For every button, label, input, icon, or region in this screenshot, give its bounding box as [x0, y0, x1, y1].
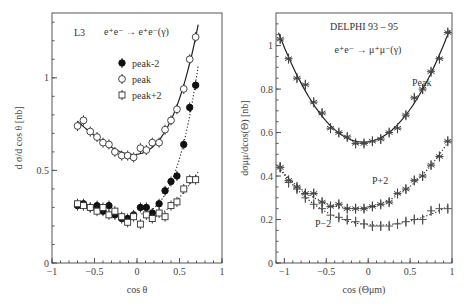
left-panel-l3: −1−0.500.5100.51cos θd σ/d cos θ [nb]L3e…: [13, 13, 225, 295]
data-point-peak+2: [106, 210, 112, 220]
annotation-peak: Peak: [412, 77, 431, 88]
data-point-p-2: [444, 204, 452, 214]
data-point-peak: [410, 93, 418, 103]
data-point-peak+2: [187, 175, 193, 185]
data-point-peak: [124, 151, 131, 161]
data-point-peak: [326, 123, 334, 133]
data-point-p+2: [352, 204, 360, 214]
y-tick-label: 0: [44, 258, 49, 269]
legend-marker-peak-2: [119, 58, 125, 68]
data-point-peak-2: [192, 80, 198, 90]
process-label: e⁺e⁻ → e⁺e⁻(γ): [104, 26, 169, 38]
data-point-p-2: [335, 212, 343, 222]
data-point-peak-2: [181, 139, 187, 149]
data-point-p+2: [343, 204, 351, 214]
data-point-p+2: [444, 136, 452, 146]
data-point-peak+2: [156, 208, 162, 218]
y-tick-label: 0.5: [37, 165, 50, 176]
data-point-peak: [156, 138, 163, 148]
data-point-p-2: [343, 215, 351, 225]
data-point-peak: [343, 132, 351, 142]
data-point-peak: [335, 128, 343, 138]
data-point-p-2: [310, 199, 318, 209]
data-point-p-2: [301, 193, 309, 203]
data-point-peak: [360, 138, 368, 148]
x-tick-label: 0.5: [173, 266, 186, 277]
data-point-p+2: [427, 160, 435, 170]
legend-marker-peak: [119, 74, 126, 84]
right-panel-delphi: −1−0.500.5100.20.40.60.81cos (Θμm)dσμμ/d…: [239, 13, 455, 296]
data-point-peak: [94, 132, 101, 142]
data-point-p-2: [402, 217, 410, 227]
data-point-p+2: [310, 188, 318, 198]
legend-label: peak: [132, 74, 151, 85]
data-point-p-2: [435, 204, 443, 214]
data-point-p-2: [427, 206, 435, 216]
data-point-peak-2: [106, 201, 112, 211]
y-tick-label: 0.6: [261, 127, 274, 138]
data-point-peak: [143, 145, 150, 155]
x-tick-label: 0: [135, 266, 140, 277]
data-point-peak+2: [193, 175, 199, 185]
data-point-p+2: [368, 201, 376, 211]
x-tick-label: −1: [279, 266, 290, 277]
data-point-peak+2: [168, 201, 174, 211]
data-point-p-2: [368, 221, 376, 231]
experiment-label: L3: [74, 27, 85, 38]
data-point-peak: [368, 136, 376, 146]
x-axis-title: cos (Θμm): [343, 284, 386, 296]
data-point-p-2: [352, 217, 360, 227]
x-tick-label: 0: [366, 266, 371, 277]
data-point-peak-2: [156, 199, 162, 209]
legend-label: peak-2: [132, 58, 159, 69]
data-point-p+2: [377, 199, 385, 209]
data-point-peak: [318, 108, 326, 118]
x-axis-title: cos θ: [127, 284, 148, 295]
y-tick-label: 0.8: [261, 84, 274, 95]
annotation-p-plus-2: P+2: [372, 175, 388, 186]
data-point-peak: [192, 32, 199, 42]
data-point-peak+2: [137, 219, 143, 229]
data-point-peak+2: [87, 202, 93, 212]
y-tick-label: 0.4: [261, 171, 274, 182]
data-point-peak: [444, 28, 452, 38]
x-tick-label: 1: [450, 266, 455, 277]
data-point-peak-2: [187, 102, 193, 112]
x-tick-label: 0.5: [404, 266, 417, 277]
data-point-p-2: [410, 215, 418, 225]
x-tick-label: −0.5: [317, 266, 335, 277]
data-point-p+2: [419, 171, 427, 181]
data-point-p+2: [410, 175, 418, 185]
experiment-label: DELPHI 93 – 95: [330, 21, 398, 32]
data-point-p-2: [360, 219, 368, 229]
data-point-peak: [100, 138, 107, 148]
data-point-peak-2: [168, 177, 174, 187]
y-tick-label: 1: [44, 72, 49, 83]
figure: −1−0.500.5100.51cos θd σ/d cos θ [nb]L3e…: [0, 0, 464, 307]
y-tick-label: 0.2: [261, 214, 274, 225]
data-point-peak: [385, 128, 393, 138]
data-point-peak: [87, 127, 94, 137]
data-point-p-2: [377, 221, 385, 231]
y-tick-label: 0: [268, 258, 273, 269]
data-point-peak+2: [162, 212, 168, 222]
data-point-peak: [301, 80, 309, 90]
annotation-p-minus-2: P−2: [315, 218, 331, 229]
data-point-peak+2: [143, 210, 149, 220]
data-point-p-2: [394, 219, 402, 229]
data-point-p-2: [385, 221, 393, 231]
data-point-p+2: [360, 204, 368, 214]
data-point-peak-2: [162, 186, 168, 196]
data-point-peak-2: [137, 202, 143, 212]
legend-marker-peak+2: [119, 90, 125, 100]
y-axis-title: dσμμ/dcos(Θ) [nb]: [239, 100, 251, 175]
data-point-p+2: [402, 184, 410, 194]
data-point-p+2: [335, 199, 343, 209]
data-point-peak: [394, 123, 402, 133]
data-point-p-2: [318, 204, 326, 214]
process-label: e⁺e⁻ → μ⁺μ⁻(γ): [335, 44, 402, 56]
data-point-peak: [149, 138, 156, 148]
data-point-p-2: [419, 215, 427, 225]
y-tick-label: 1: [268, 40, 273, 51]
x-tick-label: −0.5: [85, 266, 103, 277]
